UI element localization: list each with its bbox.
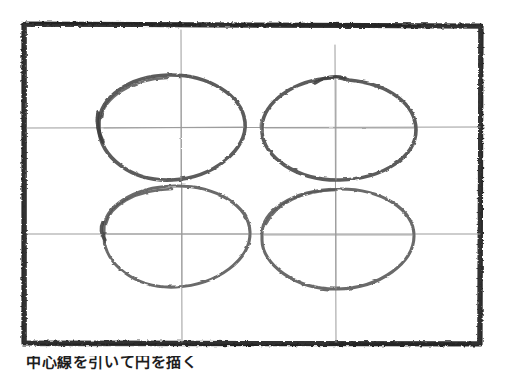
page-background — [0, 0, 506, 374]
figure-caption-text: 中心線を引いて円を描く — [26, 356, 198, 371]
figure-caption: 中心線を引いて円を描く — [0, 356, 506, 374]
handdrawn-figure — [0, 0, 506, 374]
scanned-page: 中心線を引いて円を描く — [0, 0, 506, 374]
border-bottom-accent — [40, 344, 470, 345]
